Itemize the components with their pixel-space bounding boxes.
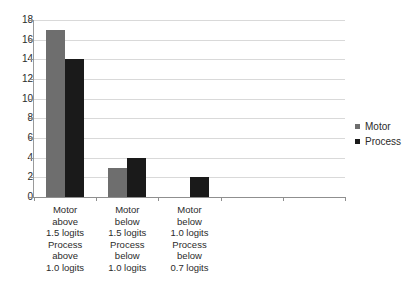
legend-item-motor[interactable]: Motor (355, 119, 419, 134)
y-tick: 10 (0, 99, 33, 100)
x-tick-mark (96, 197, 97, 201)
legend-item-process[interactable]: Process (355, 134, 419, 149)
x-category-label: Motor below 1.0 logits Process below 0.7… (158, 204, 220, 274)
legend-swatch-icon (355, 139, 360, 144)
bar-group (108, 20, 146, 197)
y-tick: 12 (0, 79, 33, 80)
bar-group (171, 20, 209, 197)
x-axis-line (33, 197, 345, 198)
bar-process[interactable] (190, 177, 209, 197)
y-tick: 14 (0, 59, 33, 60)
chart-legend: Motor Process (355, 119, 419, 149)
legend-swatch-icon (355, 124, 360, 129)
bar-process[interactable] (65, 59, 84, 197)
y-tick: 6 (0, 138, 33, 139)
x-tick-mark (158, 197, 159, 201)
bar-motor[interactable] (108, 168, 127, 198)
bar-motor[interactable] (46, 30, 65, 197)
y-tick-mark (29, 118, 33, 119)
x-tick-mark (221, 197, 222, 201)
y-tick: 4 (0, 158, 33, 159)
y-tick: 0 (0, 197, 33, 198)
y-tick-mark (29, 40, 33, 41)
bar-chart: 024681012141618 Motor above 1.5 logits P… (0, 0, 419, 294)
y-tick: 16 (0, 40, 33, 41)
legend-label: Process (365, 137, 401, 147)
bar-group (46, 20, 84, 197)
y-tick-mark (29, 59, 33, 60)
y-tick-mark (29, 177, 33, 178)
y-tick-mark (29, 158, 33, 159)
y-tick-mark (29, 197, 33, 198)
y-tick: 8 (0, 118, 33, 119)
x-tick-mark (345, 197, 346, 201)
x-tick-mark (34, 197, 35, 201)
y-tick: 18 (0, 20, 33, 21)
legend-label: Motor (365, 122, 391, 132)
y-tick-mark (29, 79, 33, 80)
y-tick-mark (29, 99, 33, 100)
x-tick-mark (283, 197, 284, 201)
y-tick: 2 (0, 177, 33, 178)
y-tick-mark (29, 20, 33, 21)
y-axis-line (33, 20, 34, 198)
y-tick-mark (29, 138, 33, 139)
bar-group (295, 20, 333, 197)
x-category-label: Motor above 1.5 logits Process above 1.0… (34, 204, 96, 274)
bar-group (233, 20, 271, 197)
x-category-label: Motor below 1.5 logits Process below 1.0… (96, 204, 158, 274)
bar-process[interactable] (127, 158, 146, 197)
